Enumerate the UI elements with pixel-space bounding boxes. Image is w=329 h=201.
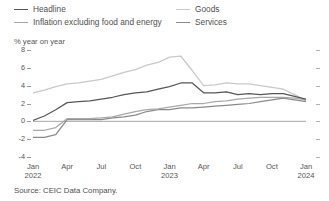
legend-label-headline: Headline	[33, 3, 66, 16]
y-tick-label: 0	[11, 116, 25, 125]
y-tick-label: -2	[11, 134, 25, 143]
y-tick-label: 4	[11, 81, 25, 90]
chart-figure: Headline Goods Inflation excluding food …	[0, 0, 329, 201]
chart-lines	[33, 50, 306, 157]
y-tick-label: 6	[11, 63, 25, 72]
legend-swatch-goods	[176, 9, 190, 10]
y-tick-mark	[27, 139, 31, 140]
legend-swatch-inflation-ex-food-energy	[14, 22, 28, 23]
legend-item-goods: Goods	[176, 3, 219, 16]
y-tick-mark-right	[316, 68, 320, 69]
legend-row-2: Inflation excluding food and energy Serv…	[14, 16, 314, 29]
y-tick-mark	[27, 104, 31, 105]
legend-label-goods: Goods	[195, 3, 219, 16]
series-line-headline	[33, 83, 306, 120]
y-tick-mark-right	[316, 121, 320, 122]
legend-item-headline: Headline	[14, 3, 176, 16]
y-tick-label: 2	[11, 99, 25, 108]
y-tick-mark-right	[316, 86, 320, 87]
y-tick-mark	[27, 68, 31, 69]
legend-swatch-services	[176, 22, 190, 23]
legend-label-inflation-ex-food-energy: Inflation excluding food and energy	[33, 16, 162, 29]
y-tick-label: 8	[11, 45, 25, 54]
legend-item-services: Services	[176, 16, 227, 29]
legend-row-1: Headline Goods	[14, 3, 314, 16]
series-line-services	[33, 98, 306, 137]
y-tick-label: -4	[11, 152, 25, 161]
y-tick-mark-right	[316, 104, 320, 105]
y-tick-mark-right	[316, 139, 320, 140]
y-tick-mark-right	[316, 50, 320, 51]
y-tick-mark	[27, 50, 31, 51]
legend-swatch-headline	[14, 9, 28, 10]
plot-area	[33, 50, 306, 157]
y-tick-mark	[27, 121, 31, 122]
chart-legend: Headline Goods Inflation excluding food …	[14, 3, 314, 29]
y-tick-mark	[27, 157, 31, 158]
legend-item-inflation-ex-food-energy: Inflation excluding food and energy	[14, 16, 176, 29]
source-note: Source: CEIC Data Company.	[14, 186, 117, 195]
y-tick-mark	[27, 86, 31, 87]
y-tick-mark-right	[316, 157, 320, 158]
legend-label-services: Services	[195, 16, 227, 29]
x-tick-label: Jan2024	[286, 162, 326, 180]
